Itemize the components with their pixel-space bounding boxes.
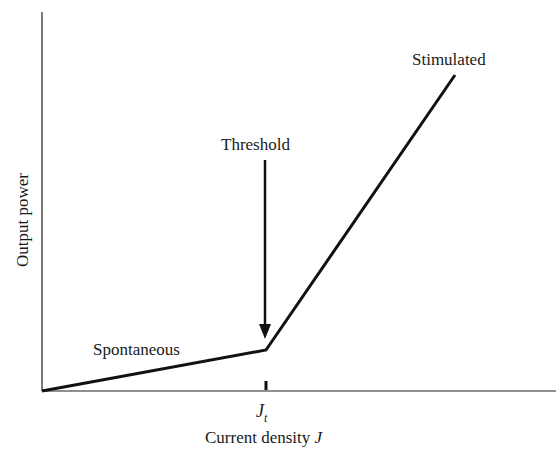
x-axis-label: Current density J (205, 429, 322, 446)
y-axis-label: Output power (13, 165, 33, 275)
threshold-label: Threshold (221, 136, 290, 153)
threshold-arrow-head (259, 324, 271, 339)
jt-main: J (256, 401, 264, 421)
jt-sub: t (264, 411, 267, 425)
jt-tick-label: Jt (256, 402, 267, 424)
spontaneous-label: Spontaneous (93, 341, 180, 358)
x-axis-label-text: Current density (205, 428, 315, 447)
stimulated-label: Stimulated (412, 51, 486, 68)
x-axis-label-var: J (315, 428, 323, 447)
